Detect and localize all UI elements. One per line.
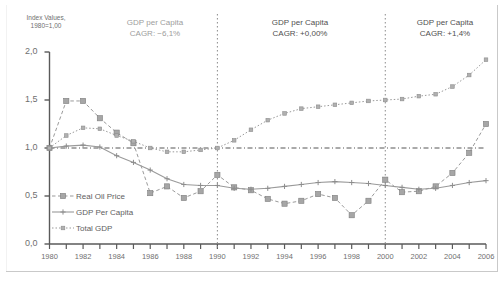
x-axis-tick-label: 2006 (469, 252, 503, 261)
series-marker (97, 116, 102, 121)
x-axis-tick-label: 2002 (402, 252, 436, 261)
series-marker (366, 198, 371, 203)
series-marker (451, 85, 455, 89)
series-line (50, 60, 487, 152)
x-axis-tick-label: 1994 (268, 252, 302, 261)
series-marker (98, 127, 102, 131)
series-marker (299, 198, 304, 203)
legend-sample-marker (61, 226, 65, 230)
series-marker (450, 170, 455, 175)
series-marker (182, 150, 186, 154)
series-marker (265, 196, 270, 201)
series-marker (434, 92, 438, 96)
legend-label-real-oil-price: Real Oil Price (76, 192, 125, 201)
series-marker (148, 146, 152, 150)
series-marker (48, 146, 52, 150)
series-line (50, 145, 487, 189)
x-axis-tick-label: 1986 (133, 252, 167, 261)
x-axis-tick-label: 1992 (234, 252, 268, 261)
series-marker (232, 139, 236, 143)
series-gdp-per-capita (47, 143, 489, 192)
series-marker (467, 150, 472, 155)
legend-sample-marker (60, 193, 65, 198)
series-marker (199, 148, 203, 152)
series-marker (367, 99, 371, 103)
series-marker (316, 191, 321, 196)
x-axis-tick-label: 1998 (335, 252, 369, 261)
chart-figure: Index Values, 1980=1,00 GDP per Capita C… (0, 0, 504, 281)
series-marker (300, 107, 304, 111)
x-axis-tick-label: 1988 (167, 252, 201, 261)
series-marker (349, 213, 354, 218)
series-total-gdp (48, 58, 488, 154)
series-marker (283, 112, 287, 116)
series-marker (132, 139, 136, 143)
plot-area (0, 0, 504, 281)
series-marker (484, 58, 488, 62)
series-marker (249, 128, 253, 132)
x-axis-tick-label: 2004 (435, 252, 469, 261)
series-marker (332, 195, 337, 200)
series-marker (467, 73, 471, 77)
series-marker (216, 146, 220, 150)
x-axis-tick-label: 1996 (301, 252, 335, 261)
series-marker (80, 98, 85, 103)
series-marker (417, 94, 421, 98)
y-axis-tick-label: 1,5 (12, 94, 38, 104)
y-axis-tick-label: 0,0 (12, 238, 38, 248)
x-axis-tick-label: 2000 (368, 252, 402, 261)
series-marker (399, 190, 404, 195)
series-marker (383, 98, 387, 102)
series-marker (198, 189, 203, 194)
series-marker (383, 177, 388, 182)
series-marker (333, 103, 337, 107)
legend-label-gdp-per-capita: GDP Per Capita (76, 208, 133, 217)
series-marker (266, 118, 270, 122)
series-marker (64, 98, 69, 103)
x-axis-tick-label: 1990 (200, 252, 234, 261)
series-marker (81, 126, 85, 130)
series-marker (483, 121, 488, 126)
series-marker (148, 191, 153, 196)
y-axis-tick-label: 1,0 (12, 142, 38, 152)
series-marker (165, 150, 169, 154)
series-marker (164, 184, 169, 189)
legend-marks-group (52, 193, 74, 229)
series-marker (400, 97, 404, 101)
series-marker (282, 201, 287, 206)
x-axis-tick-label: 1984 (100, 252, 134, 261)
x-axis-tick-label: 1980 (33, 252, 67, 261)
series-marker (181, 195, 186, 200)
series-marker (316, 105, 320, 109)
series-marker (215, 172, 220, 177)
legend-label-total-gdp: Total GDP (76, 224, 112, 233)
x-axis-tick-label: 1982 (66, 252, 100, 261)
y-axis-tick-label: 0,5 (12, 190, 38, 200)
series-marker (350, 101, 354, 105)
series-marker (64, 134, 68, 138)
axes-group (45, 52, 487, 249)
series-marker (115, 134, 119, 138)
divider-lines-group (217, 14, 385, 249)
y-axis-tick-label: 2,0 (12, 46, 38, 56)
